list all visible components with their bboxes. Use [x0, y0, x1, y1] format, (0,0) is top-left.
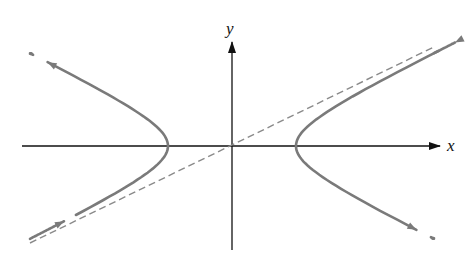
arrow-left-upper-icon [48, 62, 58, 69]
arrow-right-upper-icon [455, 35, 465, 42]
hyperbola-diagram: y x [0, 0, 476, 261]
left-branch-upper-tail [30, 53, 33, 55]
trajectory-arrows [48, 35, 465, 229]
right-branch-main [296, 51, 439, 230]
x-axis-label: x [447, 137, 455, 154]
y-axis-label: y [226, 20, 234, 37]
diagram-svg [0, 0, 476, 261]
left-branch-main [48, 62, 168, 215]
arrow-right-lower-icon [407, 223, 417, 230]
right-branch-lower-tail [431, 237, 434, 239]
